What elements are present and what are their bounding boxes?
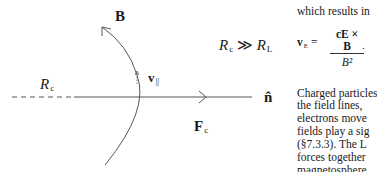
text-line-7: magnetosphere (297, 165, 367, 172)
v-parallel-symbol: v (148, 70, 155, 85)
body-text-column: which results in vE = Charged particles … (297, 0, 377, 172)
equation-fraction: cE × B B² (330, 28, 364, 68)
equation-period: . (362, 40, 365, 51)
equation-numerator: cE × B (330, 28, 364, 54)
text-line-1: Charged particles (297, 88, 377, 100)
text-line-intro: which results in (297, 6, 370, 18)
label-n-hat: n̂ (264, 90, 272, 105)
condition-left-sub: c (229, 44, 233, 54)
condition-right-sub: L (267, 44, 273, 54)
force-symbol: F (194, 118, 203, 134)
field-line-arc (102, 27, 140, 165)
equation-v-sub: E (304, 42, 308, 50)
condition-left: R (219, 37, 228, 53)
condition-Rc-gg-RL: Rc ≫ RL (219, 38, 272, 54)
equation-equals: = (311, 36, 318, 48)
text-line-6: forces together (297, 152, 366, 164)
curvature-drift-diagram: B v|| Rc n̂ Fc Rc ≫ RL (0, 0, 290, 172)
text-line-5: (§7.3.3). The L (297, 139, 367, 151)
text-line-4: fields play a sig (297, 126, 370, 138)
equation-lhs: vE = (297, 37, 317, 50)
condition-right: R (257, 37, 266, 53)
force-subscript: c (204, 125, 208, 135)
equation-denominator: B² (330, 54, 364, 68)
equation-v: v (297, 36, 303, 48)
text-line-2: the field lines, (297, 100, 362, 112)
label-v-parallel: v|| (148, 71, 159, 86)
condition-operator: ≫ (237, 37, 253, 53)
label-B: B (115, 9, 125, 24)
v-parallel-subscript: || (156, 76, 160, 86)
radius-subscript: c (50, 83, 54, 93)
text-line-3: electrons move (297, 113, 367, 125)
radius-symbol: R (40, 76, 49, 92)
label-Rc: Rc (40, 77, 54, 93)
label-Fc: Fc (194, 119, 208, 135)
